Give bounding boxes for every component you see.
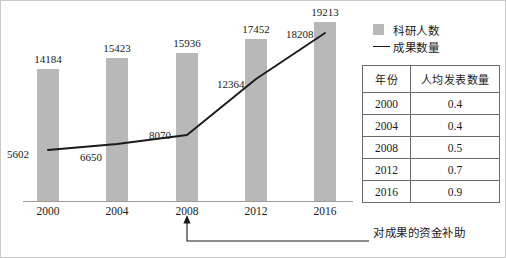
chart-figure: 14184 15423 15936 17452 19213 5602 6650 … xyxy=(0,0,506,258)
annotation-leader-line xyxy=(1,1,506,258)
annotation-label-funding-subsidy: 对成果的资金补助 xyxy=(373,224,465,240)
